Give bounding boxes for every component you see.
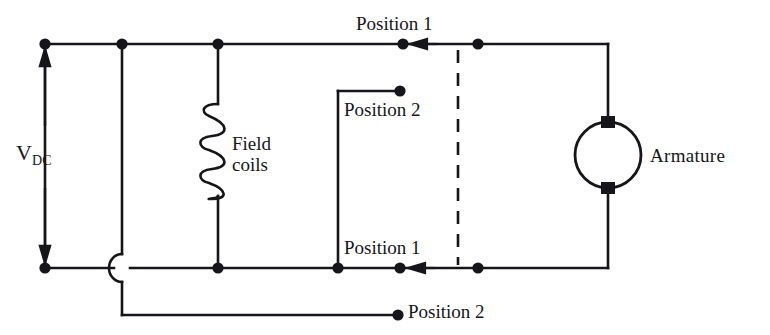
field-coils-label-line2: coils xyxy=(232,154,268,175)
supply-voltage-label: VDC xyxy=(16,142,52,168)
field-coils-label: Fieldcoils xyxy=(232,133,271,176)
current-arrow-top-head xyxy=(410,39,427,49)
node-position-2-bottom[interactable] xyxy=(392,309,403,320)
node-position-2-top[interactable] xyxy=(394,85,405,96)
node-position-1-top[interactable] xyxy=(397,38,408,49)
position-2-bottom-label: Position 2 xyxy=(408,302,485,321)
position-1-top-label: Position 1 xyxy=(356,14,433,33)
position-2-top-label: Position 2 xyxy=(344,100,421,119)
armature-label: Armature xyxy=(650,146,725,165)
armature-brush-bottom xyxy=(601,182,615,194)
node-position-1-bottom[interactable] xyxy=(394,262,405,273)
armature-circle xyxy=(575,122,641,188)
vdc-arrowhead-up xyxy=(40,49,50,66)
circuit-diagram-canvas: VDC Fieldcoils Armature Position 1 Posit… xyxy=(0,0,770,335)
field-coils-label-line1: Field xyxy=(232,133,271,154)
node-switchbox-bottom[interactable] xyxy=(332,262,343,273)
vdc-arrowhead-down xyxy=(40,246,50,263)
current-arrow-bottom-head xyxy=(408,263,425,273)
armature-symbol xyxy=(575,116,641,194)
field-coils-inductor xyxy=(200,104,224,199)
supply-voltage-subscript: DC xyxy=(32,153,52,168)
node-field-bottom[interactable] xyxy=(212,262,223,273)
position-1-bottom-label: Position 1 xyxy=(344,238,421,257)
terminal-dots xyxy=(39,38,483,320)
armature-brush-top xyxy=(601,116,615,128)
node-link-top[interactable] xyxy=(472,38,483,49)
node-field-top[interactable] xyxy=(212,38,223,49)
node-supply-bottom[interactable] xyxy=(39,262,50,273)
circuit-schematic-svg xyxy=(0,0,770,335)
node-link-bottom[interactable] xyxy=(472,262,483,273)
supply-voltage-symbol: V xyxy=(16,140,32,165)
node-branch-top[interactable] xyxy=(116,38,127,49)
node-supply-top[interactable] xyxy=(39,38,50,49)
